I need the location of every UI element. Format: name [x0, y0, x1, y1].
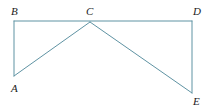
- vertex-label-b: B: [11, 6, 18, 17]
- segment-AC: [14, 22, 90, 76]
- vertex-label-d: D: [193, 6, 201, 17]
- geometry-figure: A B C D E: [0, 0, 209, 110]
- vertex-label-e: E: [193, 96, 200, 107]
- vertex-label-c: C: [86, 6, 93, 17]
- segment-CE: [90, 22, 192, 93]
- segments-group: [14, 21, 192, 93]
- vertex-label-a: A: [11, 83, 18, 94]
- figure-canvas: [0, 0, 209, 110]
